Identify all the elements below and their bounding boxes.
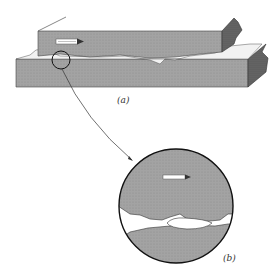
panel-a-label: (a) — [117, 95, 129, 105]
panel-b-label: (b) — [223, 253, 236, 263]
upper-block — [38, 17, 242, 58]
diagram-canvas — [0, 0, 279, 280]
